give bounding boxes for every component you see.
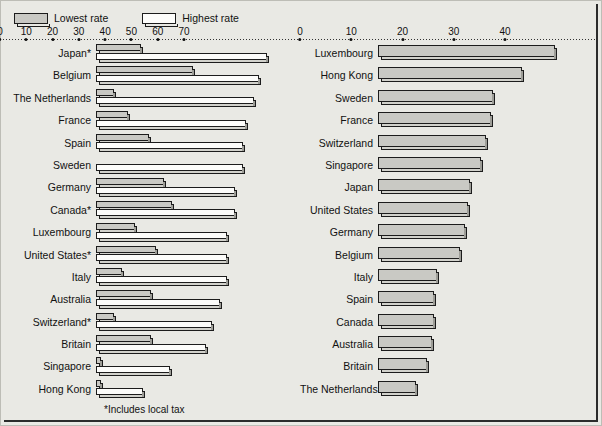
bar-canada-highest-rate [96,209,235,216]
x-axis-left: 010203040506070 [0,26,300,42]
bar-bottom-face [99,261,229,264]
bar-row-switzerland: Switzerland* [0,311,300,333]
x-tick-label: 10 [346,26,357,37]
category-label-luxembourg: Luxembourg [0,221,96,243]
x-tick-40: 40 [100,26,111,40]
category-label-belgium: Belgium [300,244,378,266]
bar-bottom-face [99,104,256,107]
bar-side-face [554,48,557,60]
x-tick-label: 0 [0,26,3,37]
bar-side-face [266,56,269,63]
bar-row-sweden: Sweden [300,87,596,109]
bar-singapore-highest-rate [96,366,170,373]
bar-canada-rate [378,314,434,326]
bar-singapore-rate [378,157,481,169]
category-label-japan: Japan [300,176,378,198]
bar-side-face [242,167,245,174]
bar-side-face [226,235,229,242]
bar-luxembourg-rate [378,45,555,57]
bar-sweden-highest-rate [96,164,243,171]
x-tick-dot [504,38,507,41]
bar-the-netherlands-lowest-rate [96,89,114,96]
bar-bottom-face [99,373,172,376]
category-label-sweden: Sweden [0,154,96,176]
bar-spain-lowest-rate [96,134,149,141]
bar-row-luxembourg: Luxembourg [300,42,596,64]
bar-row-britain: Britain [300,355,596,377]
bar-side-face [467,205,470,217]
category-label-sweden: Sweden [300,87,378,109]
bar-row-united-states: United States* [0,244,300,266]
bar-side-face [245,123,248,130]
bar-side-face [242,145,245,152]
category-label-britain: Britain [0,333,96,355]
x-tick-10: 10 [346,26,357,40]
bar-hong-kong-rate [378,67,522,79]
category-label-singapore: Singapore [0,355,96,377]
bar-bottom-face [381,57,557,60]
bar-side-face [234,190,237,197]
frame-bottom-rule [4,420,598,422]
bar-side-face [431,339,434,351]
bar-bottom-face [381,393,418,396]
category-label-spain: Spain [300,288,378,310]
bar-hong-kong-lowest-rate [96,380,101,387]
bar-row-sweden: Sweden [0,154,300,176]
x-tick-label: 40 [100,26,111,37]
bar-bottom-face [99,171,245,174]
bar-italy-rate [378,269,437,281]
bar-bottom-face [381,259,462,262]
x-tick-dot [299,38,302,41]
bar-row-singapore: Singapore [300,154,596,176]
x-tick-0: 0 [0,26,3,40]
bar-side-face [415,384,418,396]
bar-united-states-highest-rate [96,254,227,261]
bar-bottom-face [99,328,214,331]
bar-luxembourg-highest-rate [96,232,227,239]
bar-bottom-face [99,351,208,354]
x-tick-dot [51,38,54,41]
bar-britain-highest-rate [96,344,206,351]
x-tick-label: 30 [448,26,459,37]
x-tick-20: 20 [47,26,58,40]
bar-japan-highest-rate [96,53,267,60]
category-label-germany: Germany [0,176,96,198]
category-label-hong-kong: Hong Kong [0,378,96,400]
x-tick-label: 20 [397,26,408,37]
category-label-the-netherlands: The Netherlands [300,378,378,400]
category-label-switzerland: Switzerland* [0,311,96,333]
bar-side-face [234,212,237,219]
x-tick-20: 20 [397,26,408,40]
category-label-britain: Britain [300,355,378,377]
bar-row-france: France [300,109,596,131]
category-label-united-states: United States* [0,244,96,266]
x-tick-label: 30 [73,26,84,37]
x-tick-label: 50 [126,26,137,37]
frame-right-rule [596,4,598,422]
bar-side-face [485,138,488,150]
bar-side-face [492,93,495,105]
bar-row-japan: Japan* [0,42,300,64]
category-label-italy: Italy [0,266,96,288]
bar-row-the-netherlands: The Netherlands [0,87,300,109]
x-tick-dot [156,38,159,41]
x-tick-label: 0 [297,26,303,37]
bar-france-highest-rate [96,120,246,127]
category-label-italy: Italy [300,266,378,288]
bar-canada-lowest-rate [96,201,172,208]
bar-side-face [426,361,429,373]
bar-bottom-face [99,127,248,130]
bar-bottom-face [99,149,245,152]
x-axis-line-left [0,39,300,40]
bar-bottom-face [381,147,488,150]
category-label-singapore: Singapore [300,154,378,176]
legend-label-highest-rate: Highest rate [182,12,239,24]
x-tick-dot [25,38,28,41]
bar-side-face [469,182,472,194]
category-label-switzerland: Switzerland [300,132,378,154]
bar-side-face [258,78,261,85]
x-tick-dot [350,38,353,41]
bar-row-luxembourg: Luxembourg [0,221,300,243]
x-axis-right: 010203040 [300,26,596,42]
x-tick-label: 70 [178,26,189,37]
